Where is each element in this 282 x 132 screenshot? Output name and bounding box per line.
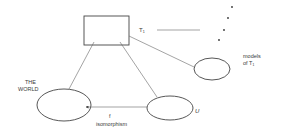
ellipsis-dot (227, 17, 229, 19)
model-u-ellipse (147, 96, 193, 120)
ellipsis-dot (218, 39, 220, 41)
theory-box (84, 16, 129, 45)
edge-theory-to-model-u (120, 42, 157, 97)
world-label-line1: THE (25, 79, 36, 85)
diagram-canvas: T₁ models of T₁ THE WORLD U f isomorphis… (0, 0, 282, 132)
ellipsis-dot (223, 29, 225, 31)
edge-theory-to-world (69, 42, 94, 89)
world-ellipse (37, 89, 91, 121)
isomorphism-function-label: f (109, 113, 111, 119)
theory-box-label: T₁ (139, 27, 145, 33)
ellipsis-dot (231, 6, 233, 8)
model-u-label: U (195, 108, 200, 114)
models-of-t-label-line2: of T₁ (243, 60, 254, 66)
models-of-t-label-line1: models (243, 53, 261, 59)
world-label-line2: WORLD (18, 86, 39, 92)
models-of-t-ellipse (194, 58, 230, 80)
edge-theory-to-models (129, 36, 194, 67)
isomorphism-label: isomorphism (96, 121, 128, 127)
